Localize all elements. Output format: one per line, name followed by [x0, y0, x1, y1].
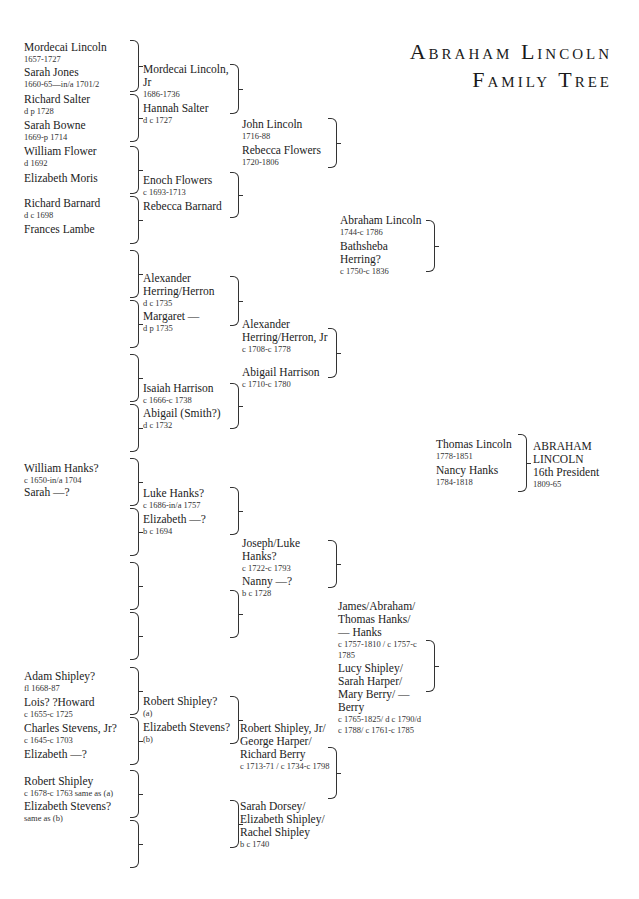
- name: Mordecai Lincoln, Jr: [143, 63, 233, 89]
- dates: c 1686-in/a 1757: [143, 500, 204, 511]
- name: Elizabeth —?: [24, 748, 87, 761]
- subject-title: 16th President: [533, 466, 599, 479]
- dates: d c 1732: [143, 420, 221, 431]
- dates: (b): [143, 734, 230, 745]
- person-gen2-1: Bathsheba Herring?c 1750-c 1836: [340, 240, 410, 277]
- bracket: [130, 458, 139, 506]
- person-gen3-1: Rebecca Flowers1720-1806: [242, 144, 321, 168]
- name: Hannah Salter: [143, 102, 208, 115]
- name: Sarah Dorsey/ Elizabeth Shipley/ Rachel …: [240, 800, 335, 839]
- name: Elizabeth Stevens?: [143, 721, 230, 734]
- dates: d c 1735: [143, 298, 233, 309]
- bracket: [328, 540, 337, 588]
- person-gen4-4: Alexander Herring/Herrond c 1735: [143, 272, 233, 309]
- dates: c 1645-c 1703: [24, 735, 117, 746]
- name: John Lincoln: [242, 118, 302, 131]
- bracket: [426, 220, 435, 272]
- name: Alexander Herring/Herron, Jr: [242, 318, 332, 344]
- bracket: [130, 667, 139, 715]
- person-gen5-11: Lois? ?Howardc 1655-c 1725: [24, 696, 95, 720]
- dates: c 1708-c 1778: [242, 344, 332, 355]
- bracket: [328, 747, 337, 799]
- person-gen5-1: Sarah Jones1660-65—in/a 1701/2: [24, 66, 99, 90]
- person-gen5-5: Elizabeth Moris: [24, 172, 98, 185]
- name: Richard Barnard: [24, 197, 100, 210]
- bracket: [130, 562, 139, 610]
- dates: c 1693-1713: [143, 187, 212, 198]
- dates: d c 1727: [143, 115, 208, 126]
- dates: c 1666-c 1738: [143, 395, 214, 406]
- bracket: [230, 172, 239, 218]
- person-gen2-3: Lucy Shipley/ Sarah Harper/ Mary Berry/ …: [338, 662, 423, 736]
- bracket: [518, 434, 527, 492]
- name: Nanny —?: [242, 575, 292, 588]
- dates: 1720-1806: [242, 157, 321, 168]
- name: Lucy Shipley/ Sarah Harper/ Mary Berry/ …: [338, 662, 423, 714]
- dates: 1744-c 1786: [340, 227, 421, 238]
- name: Robert Shipley, Jr/ George Harper/ Richa…: [240, 722, 335, 761]
- bracket: [230, 276, 239, 326]
- title-line-2: Family Tree: [410, 66, 612, 94]
- subject-name-line-1: ABRAHAM: [533, 440, 599, 453]
- name: Lois? ?Howard: [24, 696, 95, 709]
- dates: 1660-65—in/a 1701/2: [24, 79, 99, 90]
- dates: c 1710-c 1780: [242, 379, 320, 390]
- dates: same as (b): [24, 813, 111, 824]
- dates: c 1678-c 1763 same as (a): [24, 788, 113, 799]
- name: Thomas Lincoln: [436, 438, 512, 451]
- name: Nancy Hanks: [436, 464, 498, 477]
- person-gen5-8: William Hanks?c 1650-in/a 1704: [24, 462, 99, 486]
- person-gen3-2: Alexander Herring/Herron, Jrc 1708-c 177…: [242, 318, 332, 355]
- name: Frances Lambe: [24, 223, 95, 236]
- dates: c 1750-c 1836: [340, 266, 410, 277]
- person-gen4-2: Enoch Flowersc 1693-1713: [143, 174, 212, 198]
- person-gen3-4: Joseph/Luke Hanks?c 1722-c 1793: [242, 537, 312, 574]
- dates: c 1757-1810 / c 1757-c 1785: [338, 639, 423, 661]
- person-gen4-6: Isaiah Harrisonc 1666-c 1738: [143, 382, 214, 406]
- person-gen5-9: Sarah —?: [24, 486, 70, 499]
- bracket: [130, 404, 139, 452]
- name: Abraham Lincoln: [340, 214, 421, 227]
- name: Robert Shipley?: [143, 695, 217, 708]
- bracket: [130, 354, 139, 402]
- dates: b c 1728: [242, 588, 292, 599]
- person-gen4-5: Margaret —d p 1735: [143, 310, 199, 334]
- person-gen4-0: Mordecai Lincoln, Jr1686-1736: [143, 63, 233, 100]
- dates: c 1722-c 1793: [242, 563, 312, 574]
- page-title: Abraham Lincoln Family Tree: [410, 38, 612, 94]
- dates: b c 1740: [240, 839, 335, 850]
- name: Margaret —: [143, 310, 199, 323]
- dates: d p 1728: [24, 106, 90, 117]
- name: Elizabeth Moris: [24, 172, 98, 185]
- name: Joseph/Luke Hanks?: [242, 537, 312, 563]
- person-gen5-15: Elizabeth Stevens?same as (b): [24, 800, 111, 824]
- dates: 1686-1736: [143, 89, 233, 100]
- person-gen4-10: Robert Shipley?(a): [143, 695, 217, 719]
- name: William Flower: [24, 145, 97, 158]
- name: Alexander Herring/Herron: [143, 272, 233, 298]
- dates: 1716-88: [242, 131, 302, 142]
- bracket: [130, 770, 139, 818]
- bracket: [426, 640, 435, 692]
- name: Sarah Bowne: [24, 119, 86, 132]
- person-gen3-7: Sarah Dorsey/ Elizabeth Shipley/ Rachel …: [240, 800, 335, 850]
- person-gen5-10: Adam Shipley?fl 1668-87: [24, 670, 95, 694]
- bracket: [130, 40, 139, 92]
- dates: 1784-1818: [436, 477, 498, 488]
- dates: c 1650-in/a 1704: [24, 475, 99, 486]
- bracket: [130, 508, 139, 556]
- person-gen5-4: William Flowerd 1692: [24, 145, 97, 169]
- bracket: [130, 612, 139, 660]
- name: Mordecai Lincoln: [24, 41, 107, 54]
- name: Sarah —?: [24, 486, 70, 499]
- person-gen3-3: Abigail Harrisonc 1710-c 1780: [242, 366, 320, 390]
- name: Abigail (Smith?): [143, 407, 221, 420]
- person-gen5-3: Sarah Bowne1669-p 1714: [24, 119, 86, 143]
- name: William Hanks?: [24, 462, 99, 475]
- subject-name-line-2: LINCOLN: [533, 453, 599, 466]
- subject-dates: 1809-65: [533, 479, 599, 490]
- name: Isaiah Harrison: [143, 382, 214, 395]
- person-gen4-9: Elizabeth —?b c 1694: [143, 513, 206, 537]
- dates: d c 1698: [24, 210, 100, 221]
- dates: d 1692: [24, 158, 97, 169]
